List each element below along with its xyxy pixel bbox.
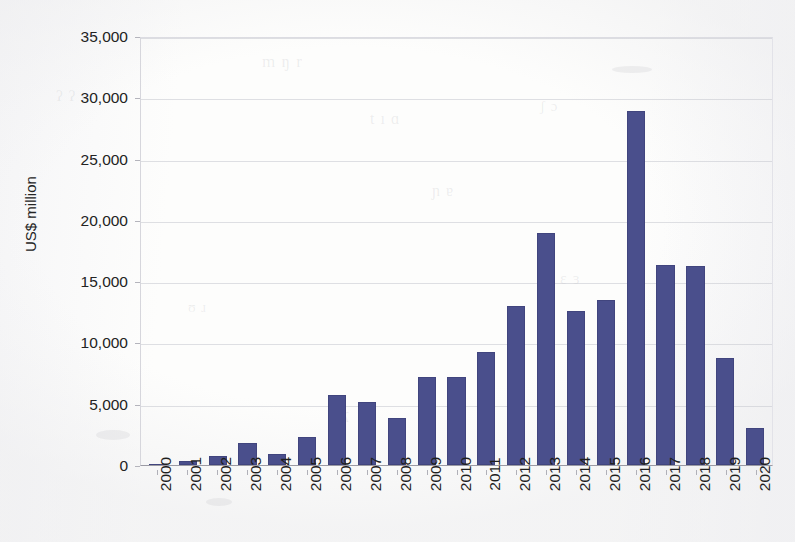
bar-2018[interactable] (686, 266, 704, 465)
x-axis-slot: 2000 (142, 470, 172, 542)
y-axis-tick-label: 20,000 (0, 212, 128, 230)
bar-slot (292, 38, 322, 465)
x-axis-slot: 2019 (711, 470, 741, 542)
bar-slot (621, 38, 651, 465)
y-axis-tick-label: 10,000 (0, 334, 128, 352)
scanned-chart-page: m ŋ r t ı ɑ ʃ ɔ ʔ ʔ ɪ ɲ ɐ ɛ ɜ ʊ ɹ ɣ ʒ ʎ … (0, 0, 795, 542)
bar-slot (561, 38, 591, 465)
y-axis-tick-label: 15,000 (0, 273, 128, 291)
x-axis-slot: 2003 (232, 470, 262, 542)
x-axis-slot: 2011 (471, 470, 501, 542)
bar-2015[interactable] (597, 300, 615, 465)
bar-2014[interactable] (567, 311, 585, 465)
x-axis-slot: 2002 (202, 470, 232, 542)
bar-slot (531, 38, 561, 465)
bar-chart: US$ million 35,00030,00025,00020,00015,0… (0, 0, 795, 542)
bar-slot (322, 38, 352, 465)
x-axis-slot: 2004 (262, 470, 292, 542)
x-axis-slot: 2007 (352, 470, 382, 542)
bar-2012[interactable] (507, 306, 525, 465)
bar-slot (591, 38, 621, 465)
x-axis-slot: 2014 (561, 470, 591, 542)
x-axis-slot: 2008 (382, 470, 412, 542)
x-axis-slot: 2020 (741, 470, 771, 542)
bar-slot (143, 38, 173, 465)
bar-slot (173, 38, 203, 465)
bar-2019[interactable] (716, 358, 734, 465)
y-axis-tick-label: 25,000 (0, 151, 128, 169)
bar-slot (651, 38, 681, 465)
bar-2007[interactable] (358, 402, 376, 465)
y-axis-tick-label: 0 (0, 457, 128, 475)
bar-2011[interactable] (477, 352, 495, 465)
bar-slot (501, 38, 531, 465)
bar-slot (233, 38, 263, 465)
bar-series (141, 38, 772, 465)
x-axis-slot: 2005 (292, 470, 322, 542)
x-axis-tick-labels: 2000200120022003200420052006200720082009… (140, 470, 773, 542)
x-axis-slot: 2012 (501, 470, 531, 542)
bar-2006[interactable] (328, 395, 346, 465)
x-axis-slot: 2001 (172, 470, 202, 542)
bar-slot (442, 38, 472, 465)
x-axis-slot: 2016 (621, 470, 651, 542)
bar-2009[interactable] (418, 377, 436, 465)
bar-slot (382, 38, 412, 465)
x-axis-tick-label: 2020 (756, 457, 774, 491)
bar-slot (412, 38, 442, 465)
bar-2010[interactable] (447, 377, 465, 465)
x-axis-slot: 2009 (412, 470, 442, 542)
y-axis-tick-label: 35,000 (0, 28, 128, 46)
bar-2016[interactable] (627, 111, 645, 465)
y-axis-tick-mark (135, 466, 140, 467)
bar-2013[interactable] (537, 233, 555, 465)
x-axis-slot: 2015 (591, 470, 621, 542)
bar-slot (352, 38, 382, 465)
bar-slot (710, 38, 740, 465)
bar-2017[interactable] (656, 265, 674, 465)
x-axis-slot: 2013 (531, 470, 561, 542)
x-axis-slot: 2017 (651, 470, 681, 542)
bar-slot (262, 38, 292, 465)
x-axis-slot: 2018 (681, 470, 711, 542)
x-axis-slot: 2010 (442, 470, 472, 542)
plot-area (140, 37, 773, 466)
bar-slot (203, 38, 233, 465)
bar-slot (471, 38, 501, 465)
y-axis-tick-label: 5,000 (0, 396, 128, 414)
x-axis-slot: 2006 (322, 470, 352, 542)
bar-slot (740, 38, 770, 465)
y-axis-tick-label: 30,000 (0, 89, 128, 107)
bar-slot (680, 38, 710, 465)
